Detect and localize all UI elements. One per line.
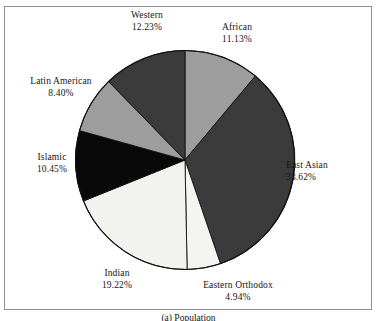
pie-label-latin-american-value: 8.40% [10, 88, 112, 100]
figure-population-pie-chart: Western 12.23% African 11.13% East Asian… [0, 0, 377, 321]
pie-label-latin-american: Latin American 8.40% [10, 76, 112, 99]
pie-label-african-value: 11.13% [200, 34, 274, 46]
figure-caption: (a) Population [0, 313, 377, 321]
pie-label-african: African 11.13% [200, 22, 274, 45]
pie-label-western-name: Western [108, 10, 186, 22]
pie-label-eastern-orthodox-value: 4.94% [182, 292, 294, 304]
pie-label-indian-name: Indian [82, 268, 152, 280]
pie-label-east-asian-name: East Asian [286, 160, 370, 172]
pie-label-east-asian: East Asian 33.62% [286, 160, 370, 183]
pie-label-islamic-name: Islamic [16, 152, 88, 164]
pie-label-indian: Indian 19.22% [82, 268, 152, 291]
pie-label-indian-value: 19.22% [82, 280, 152, 292]
pie-label-latin-american-name: Latin American [10, 76, 112, 88]
pie-label-islamic-value: 10.45% [16, 164, 88, 176]
pie-label-eastern-orthodox-name: Eastern Orthodox [182, 280, 294, 292]
pie-label-western: Western 12.23% [108, 10, 186, 33]
pie-label-east-asian-value: 33.62% [286, 172, 370, 184]
pie-chart: Western 12.23% African 11.13% East Asian… [0, 0, 377, 321]
pie-label-eastern-orthodox: Eastern Orthodox 4.94% [182, 280, 294, 303]
pie-label-islamic: Islamic 10.45% [16, 152, 88, 175]
pie-label-western-value: 12.23% [108, 22, 186, 34]
pie-label-african-name: African [200, 22, 274, 34]
